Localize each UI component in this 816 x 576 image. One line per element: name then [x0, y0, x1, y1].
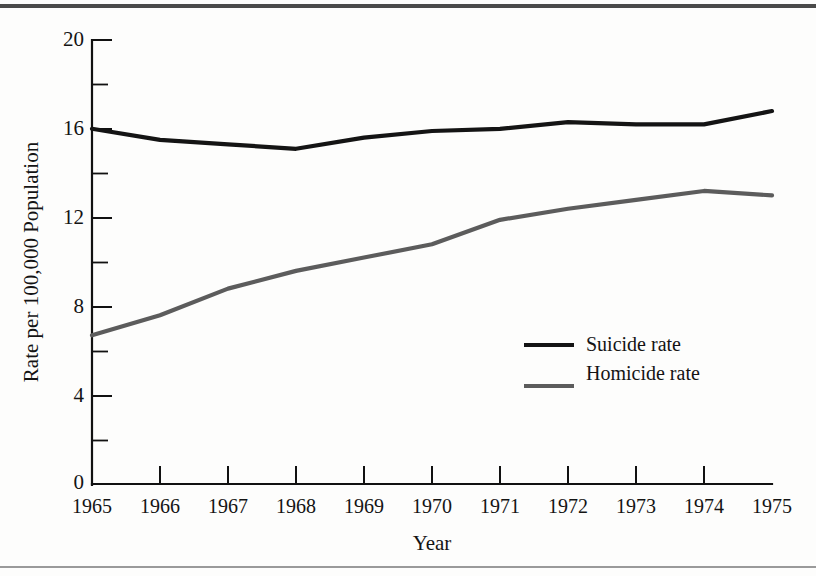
x-tick-label: 1972: [548, 495, 588, 517]
y-axis-title: Rate per 100,000 Population: [19, 141, 43, 382]
y-tick-label: 0: [74, 470, 85, 494]
x-tick-label: 1965: [72, 495, 112, 517]
y-tick-label: 16: [63, 116, 84, 140]
y-tick-label: 4: [74, 383, 85, 407]
line-chart: 20 16 12 8 4 0 1965 1966 1967 1968 1969 …: [0, 0, 816, 576]
y-tick-label: 20: [63, 27, 84, 51]
x-tick-label: 1968: [276, 495, 316, 517]
chart-legend: Suicide rate Homicide rate: [524, 333, 700, 386]
x-axis-ticks: [160, 466, 704, 484]
y-tick-label: 12: [63, 205, 84, 229]
figure-root: 20 16 12 8 4 0 1965 1966 1967 1968 1969 …: [0, 0, 816, 576]
x-tick-label: 1971: [480, 495, 520, 517]
x-tick-label: 1973: [616, 495, 656, 517]
y-axis-minor-ticks: [92, 85, 108, 441]
x-tick-label: 1974: [684, 495, 724, 517]
legend-label-homicide: Homicide rate: [586, 362, 700, 384]
x-tick-label: 1969: [344, 495, 384, 517]
x-axis-tick-labels: 1965 1966 1967 1968 1969 1970 1971 1972 …: [72, 495, 792, 517]
y-tick-label: 8: [74, 294, 85, 318]
x-axis-title: Year: [413, 531, 452, 555]
series-line-homicide-rate: [92, 191, 772, 335]
x-tick-label: 1975: [752, 495, 792, 517]
legend-label-suicide: Suicide rate: [586, 333, 681, 355]
x-tick-label: 1970: [412, 495, 452, 517]
series-line-suicide-rate: [92, 111, 772, 149]
x-tick-label: 1966: [140, 495, 180, 517]
y-axis-tick-labels: 20 16 12 8 4 0: [63, 27, 85, 494]
x-tick-label: 1967: [208, 495, 248, 517]
